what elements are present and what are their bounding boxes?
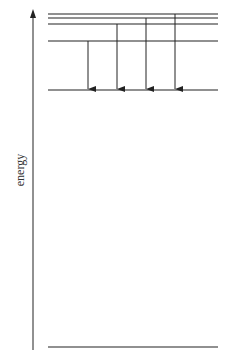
- energy-levels: [48, 14, 218, 347]
- arrow-up-icon: [30, 9, 36, 18]
- energy-axis-label: energy: [13, 154, 28, 186]
- transition-arrows: [88, 14, 175, 89]
- energy-axis: [30, 9, 36, 350]
- energy-level-diagram: [0, 0, 236, 357]
